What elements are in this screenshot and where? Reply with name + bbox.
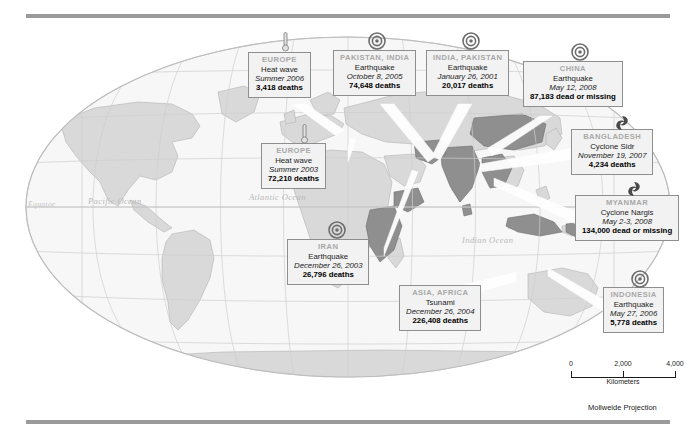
callout-kind: Earthquake [294,252,362,261]
callout-china-2008[interactable]: CHINA Earthquake May 12, 2008 87,183 dea… [523,61,623,107]
callout-place: MYANMAR [582,199,672,208]
epicenter-icon [629,268,651,288]
epicenter-icon [326,219,348,239]
epicenter-icon [460,30,482,50]
callout-toll: 226,408 deaths [406,316,474,325]
callout-indonesia-2006[interactable]: INDONESIA Earthquake May 27, 2006 5,778 … [603,287,664,333]
callout-toll: 74,648 deaths [340,81,409,90]
callout-kind: Heat wave [255,65,304,74]
scale-units-label: Kilometers [567,378,679,385]
callout-place: INDIA, PAKISTAN [433,54,502,63]
callout-kind: Cyclone Nargis [582,208,672,217]
callout-india-pakistan-2001[interactable]: INDIA, PAKISTAN Earthquake January 26, 2… [426,50,509,96]
epicenter-icon [569,41,591,61]
callout-kind: Earthquake [610,300,657,309]
callout-kind: Earthquake [433,63,502,72]
callout-kind: Tsunami [406,298,474,307]
callout-place: ASIA, AFRICA [406,289,474,298]
callout-place: CHINA [530,65,616,74]
callout-date: December 26, 2004 [406,307,474,316]
callout-place: EUROPE [268,147,319,156]
bottom-divider-rule [26,420,670,424]
callout-date: May 12, 2008 [530,83,616,92]
callout-toll: 26,796 deaths [294,270,362,279]
map-figure: Equator Pacific Ocean Atlantic Ocean Ind… [0,0,696,437]
cyclone-icon [611,112,633,132]
callout-bangladesh-2007[interactable]: BANGLADESH Cyclone Sidr November 19, 200… [571,129,653,175]
thermometer-icon [274,32,296,52]
callout-toll: 4,234 deaths [578,160,646,169]
top-divider-rule [26,14,670,18]
callout-europe-2006[interactable]: EUROPE Heat wave Summer 2006 3,418 death… [248,52,311,98]
callout-toll: 134,000 dead or missing [582,226,672,235]
callout-date: May 2-3, 2008 [582,217,672,226]
scale-tick-labels: 0 2,000 4,000 [567,360,679,370]
scale-bar-graphic [567,371,679,378]
thermometer-icon [293,124,315,144]
callout-place: IRAN [294,243,362,252]
callout-toll: 3,418 deaths [255,83,304,92]
callout-europe-2003[interactable]: EUROPE Heat wave Summer 2003 72,210 deat… [261,143,326,189]
callout-kind: Earthquake [530,74,616,83]
callout-date: December 26, 2003 [294,261,362,270]
callout-kind: Heat wave [268,156,319,165]
label-atlantic-ocean: Atlantic Ocean [249,192,306,202]
label-indian-ocean: Indian Ocean [462,235,513,245]
projection-label: Mollweide Projection [588,403,657,412]
callout-date: Summer 2006 [255,74,304,83]
scale-tick-2: 4,000 [666,360,684,367]
callout-kind: Cyclone Sidr [578,142,646,151]
label-equator: Equator [28,200,55,209]
callout-date: November 19, 2007 [578,151,646,160]
scale-tick-0: 0 [569,360,573,367]
callout-toll: 5,778 deaths [610,318,657,327]
callout-date: January 26, 2001 [433,72,502,81]
callout-kind: Earthquake [340,63,409,72]
cyclone-icon [623,178,645,198]
callout-myanmar-2008[interactable]: MYANMAR Cyclone Nargis May 2-3, 2008 134… [575,195,679,241]
callout-pakistan-india-2005[interactable]: PAKISTAN, INDIA Earthquake October 8, 20… [333,50,416,96]
label-pacific-ocean: Pacific Ocean [88,196,142,206]
callout-iran-2003[interactable]: IRAN Earthquake December 26, 2003 26,796… [287,239,369,285]
callout-place: PAKISTAN, INDIA [340,54,409,63]
callout-place: EUROPE [255,56,304,65]
callout-date: Summer 2003 [268,165,319,174]
callout-place: BANGLADESH [578,133,646,142]
epicenter-icon [366,30,388,50]
scale-tick-1: 2,000 [614,360,632,367]
callout-toll: 72,210 deaths [268,174,319,183]
callout-toll: 20,017 deaths [433,81,502,90]
map-scale-bar: 0 2,000 4,000 Kilometers [567,360,679,390]
callout-place: INDONESIA [610,291,657,300]
callout-date: October 8, 2005 [340,72,409,81]
callout-date: May 27, 2006 [610,309,657,318]
callout-asia-africa-2004[interactable]: ASIA, AFRICA Tsunami December 26, 2004 2… [399,285,481,331]
callout-toll: 87,183 dead or missing [530,92,616,101]
